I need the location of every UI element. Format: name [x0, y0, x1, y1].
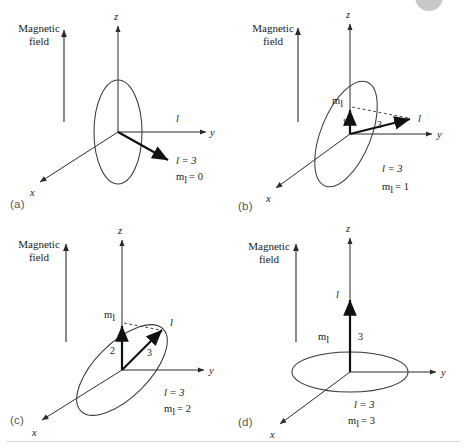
vector-symbol-d: l	[336, 289, 339, 300]
caption-ml-symbol-b: m	[382, 181, 390, 192]
panel-letter-a: (a)	[10, 198, 25, 210]
caption-ml-b: ml= 1	[382, 181, 409, 195]
x-axis-d	[280, 372, 350, 424]
page-bottom-rule	[6, 441, 461, 442]
z-axis-label-b: z	[345, 9, 350, 20]
x-axis-label-b: x	[265, 193, 271, 204]
caption-ml-value-a: = 0	[189, 171, 203, 182]
angular-momentum-vector-a	[118, 132, 168, 160]
angular-momentum-figure: Magnetic field z y x	[0, 0, 465, 448]
y-axis-label-c: y	[208, 365, 214, 376]
ml-label-d: ml	[318, 331, 329, 345]
caption-ml-d: ml= 3	[348, 415, 375, 429]
y-axis-label-b: y	[436, 129, 442, 140]
caption-ml-a: ml= 0	[176, 171, 203, 185]
vector-symbol-b: l	[418, 113, 421, 124]
ml-label-b: ml	[332, 95, 343, 109]
caption-ml-value-b: = 1	[395, 181, 409, 192]
caption-l-d: l = 3	[354, 399, 375, 410]
caption-ml-symbol-c: m	[164, 403, 172, 414]
panel-letter-b: (b)	[238, 200, 253, 212]
vector-length-label-c: 3	[147, 347, 152, 358]
y-axis-label-a: y	[209, 127, 215, 138]
z-axis-label-d: z	[345, 223, 350, 234]
caption-ml-value-d: = 3	[361, 415, 375, 426]
ml-value-label-b: 1	[342, 117, 347, 128]
ml-label-c: ml	[104, 309, 115, 323]
caption-ml-value-c: = 2	[177, 403, 191, 414]
caption-ml-subscript-b: l	[390, 184, 393, 195]
vector-symbol-c: l	[170, 317, 173, 328]
dashed-connector-b	[352, 107, 408, 118]
caption-ml-subscript-d: l	[356, 418, 359, 429]
caption-ml-subscript-c: l	[172, 406, 175, 417]
ml-value-label-c: 2	[110, 345, 115, 356]
dashed-connector-c	[124, 323, 160, 330]
ml-value-label-d: 3	[358, 331, 363, 342]
y-axis-label-d: y	[440, 367, 446, 378]
x-axis-label-a: x	[29, 187, 35, 198]
x-axis-label-d: x	[269, 429, 275, 440]
panel-d: Magnetic field z y x l ml 3 l = 3 ml= 3 …	[232, 224, 464, 448]
vector-length-label-b: 3	[377, 119, 382, 130]
caption-l-b: l = 3	[382, 163, 403, 174]
panel-c: Magnetic field z y x ml 2 l 3 l = 3 ml= …	[0, 224, 232, 448]
caption-l-c: l = 3	[164, 387, 185, 398]
caption-l-a: l = 3	[176, 155, 197, 166]
x-axis-label-c: x	[31, 427, 37, 438]
z-axis-label-a: z	[113, 11, 118, 22]
panel-letter-d: (d)	[238, 416, 253, 428]
panel-b: Magnetic field z y x ml 1 l 3 l = 3 ml	[232, 0, 464, 224]
angular-momentum-vector-c	[122, 330, 162, 370]
caption-ml-symbol-d: m	[348, 415, 356, 426]
z-axis-label-c: z	[117, 225, 122, 236]
x-axis-a	[40, 132, 118, 182]
panel-letter-c: (c)	[10, 414, 24, 426]
caption-ml-symbol-a: m	[176, 171, 184, 182]
x-axis-b	[276, 134, 350, 188]
vector-symbol-a: l	[176, 113, 179, 124]
caption-ml-c: ml= 2	[164, 403, 191, 417]
caption-ml-subscript-a: l	[184, 174, 187, 185]
panel-a: Magnetic field z y x	[0, 0, 232, 224]
